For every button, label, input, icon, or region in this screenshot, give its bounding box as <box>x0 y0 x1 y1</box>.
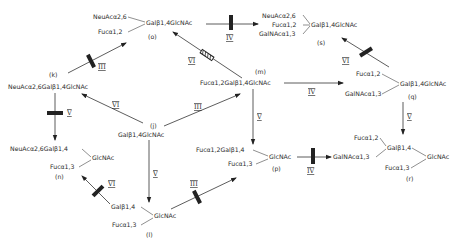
node-m-label: (m) <box>255 68 266 75</box>
node-k: (k) NeuAcα2,6Galβ1,4GlcNAc <box>8 71 89 91</box>
arrow-m-to-p: V <box>253 89 262 144</box>
node-s-label: (s) <box>317 39 325 46</box>
node-r-label: (r) <box>406 175 413 182</box>
node-k-text: NeuAcα2,6Galβ1,4GlcNAc <box>8 83 89 91</box>
enzyme-label-j-to-m: III <box>194 103 202 111</box>
node-r-core: GlcNAc <box>427 153 450 160</box>
arrow-q-to-r: V <box>403 102 412 134</box>
arrow-l-to-p: III <box>171 178 236 209</box>
node-q-line2: GalNAcα1,3 <box>345 90 381 97</box>
enzyme-label-l-to-n: VI <box>107 180 116 188</box>
node-l-line2: Fucα1,3 <box>112 221 137 228</box>
arrow-j-to-l: V <box>149 140 158 202</box>
node-j: (j) Galβ1,4GlcNAc <box>118 122 165 139</box>
arrow-k-to-o: III <box>68 43 126 73</box>
node-p-label: (p) <box>272 165 281 173</box>
node-s-line2: Fucα1,2 <box>272 21 297 28</box>
node-p: Fucα1,2Galβ1,4 Fucα1,3 GlcNAc (p) <box>196 146 292 173</box>
enzyme-label-q-to-s: VI <box>341 57 350 65</box>
node-p-core: GlcNAc <box>269 153 292 160</box>
arrow-m-to-q: IV <box>284 83 343 96</box>
enzyme-label-k-to-o: III <box>98 63 106 71</box>
arrow-line <box>68 43 126 73</box>
node-s-core: Galβ1,4GlcNAc <box>311 21 358 29</box>
node-r-line3: Fucα1,3 <box>385 164 410 171</box>
node-s-line1: NeuAcα2,6 <box>262 12 296 19</box>
node-j-text: Galβ1,4GlcNAc <box>118 131 165 139</box>
node-p-line2: Fucα1,3 <box>228 160 253 167</box>
block-bar <box>47 111 63 115</box>
arrow-q-to-s: VI <box>341 38 389 67</box>
node-k-label: (k) <box>49 71 57 78</box>
arrow-line <box>164 94 240 126</box>
arrow-l-to-n: VI <box>82 176 116 204</box>
node-o-line1: NeuAcα2,6 <box>93 13 127 20</box>
node-q: Fucα1,2 GalNAcα1,3 Galβ1,4GlcNAc (q) <box>345 70 447 101</box>
node-o-core: Galβ1,4GlcNAc <box>146 19 193 27</box>
node-q-line1: Fucα1,2 <box>356 70 381 77</box>
block-bar <box>86 54 96 68</box>
enzyme-label-p-to-r: IV <box>307 167 315 175</box>
arrow-p-to-r: IV <box>297 148 331 175</box>
enzyme-label-q-to-r: V <box>406 113 412 121</box>
node-n-branch <box>79 149 91 167</box>
arrow-j-to-k: VI <box>82 94 143 123</box>
node-s: NeuAcα2,6 Fucα1,2 GalNAcα1,3 Galβ1,4GlcN… <box>259 12 358 46</box>
node-o-line2: Fucα1,2 <box>98 28 123 35</box>
node-p-branch <box>253 150 268 164</box>
arrow-line <box>82 176 110 204</box>
node-r-line2: GalNAcα1,3 <box>333 153 369 160</box>
node-l-label: (l) <box>146 231 153 238</box>
node-r: Fucα1,2 GalNAcα1,3 Galβ1,4 Fucα1,3 GlcNA… <box>333 134 450 182</box>
block-bar <box>92 185 105 198</box>
block-bar <box>229 15 233 30</box>
node-l-branch <box>141 207 153 225</box>
enzyme-label-k-to-n: V <box>66 109 72 117</box>
node-r-line1: Fucα1,2 <box>354 134 379 141</box>
glycan-pathway-diagram: NeuAcα2,6 Fucα1,2 Galβ1,4GlcNAc (o) NeuA… <box>0 0 464 249</box>
enzyme-label-m-to-q: IV <box>308 88 316 96</box>
diagram-canvas: NeuAcα2,6 Fucα1,2 Galβ1,4GlcNAc (o) NeuA… <box>0 0 464 249</box>
enzyme-label-l-to-p: III <box>190 180 198 188</box>
arrow-k-to-n: V <box>47 93 72 140</box>
enzyme-label-j-to-l: V <box>152 170 158 178</box>
node-o-label: (o) <box>148 33 157 40</box>
enzyme-label-m-to-p: V <box>256 113 262 121</box>
enzyme-label-j-to-k: VI <box>111 101 120 109</box>
node-r-branch-b <box>411 148 426 168</box>
hatched-block-bar <box>200 49 214 60</box>
arrow-o-to-s: IV <box>206 15 258 42</box>
node-l: Galβ1,4 Fucα1,3 GlcNAc (l) <box>111 203 177 238</box>
node-l-core: GlcNAc <box>154 212 177 219</box>
node-n-line1: NeuAcα2,6Galβ1,4 <box>10 145 68 153</box>
enzyme-label-m-to-o: VI <box>187 57 196 65</box>
node-p-line1: Fucα1,2Galβ1,4 <box>196 146 245 154</box>
node-m-text: Fucα1,2Galβ1,4GlcNAc <box>200 79 271 87</box>
arrow-line <box>171 178 236 209</box>
node-o-branch <box>128 17 145 32</box>
node-j-label: (j) <box>150 122 157 130</box>
node-m: (m) Fucα1,2Galβ1,4GlcNAc <box>200 68 271 87</box>
node-r-mid: Galβ1,4 <box>387 144 411 152</box>
block-bar <box>192 190 202 204</box>
node-n-core: GlcNAc <box>92 154 115 161</box>
node-s-branch <box>303 15 310 34</box>
node-o: NeuAcα2,6 Fucα1,2 Galβ1,4GlcNAc (o) <box>93 13 193 40</box>
node-n-line2: Fucα1,3 <box>50 163 75 170</box>
node-n-label: (n) <box>55 173 64 180</box>
node-q-label: (q) <box>408 93 417 101</box>
node-q-core: Galβ1,4GlcNAc <box>400 80 447 88</box>
arrow-j-to-m: III <box>164 94 240 126</box>
node-s-line3: GalNAcα1,3 <box>259 30 295 37</box>
node-n: NeuAcα2,6Galβ1,4 Fucα1,3 GlcNAc (n) <box>10 145 115 180</box>
enzyme-label-o-to-s: IV <box>226 34 234 42</box>
node-l-line1: Galβ1,4 <box>111 203 135 211</box>
block-bar <box>311 148 315 164</box>
node-q-branch <box>382 74 399 94</box>
